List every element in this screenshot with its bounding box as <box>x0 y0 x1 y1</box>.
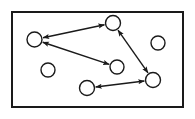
graph-node <box>41 63 55 77</box>
graph-node <box>106 16 121 31</box>
graph-node <box>151 36 165 50</box>
graph-node <box>110 60 124 74</box>
diagram-svg <box>0 0 195 119</box>
diagram-canvas <box>0 0 195 119</box>
graph-node <box>80 81 95 96</box>
graph-node <box>146 73 161 88</box>
graph-node <box>27 32 42 47</box>
